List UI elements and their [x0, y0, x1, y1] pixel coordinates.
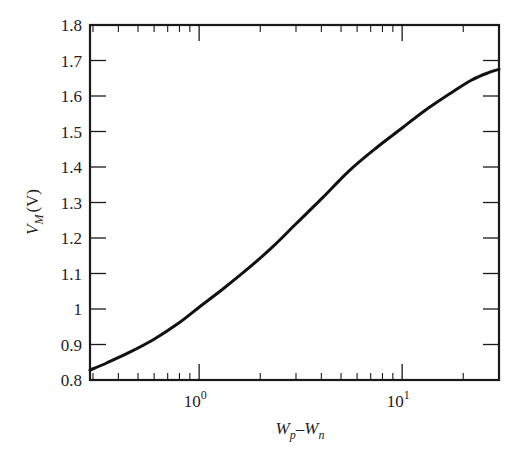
axis-ticks — [90, 25, 499, 380]
y-tick-label: 1.4 — [61, 158, 83, 177]
x-axis-title: Wp–Wn — [276, 419, 325, 442]
x-axis-title-subscript2: n — [318, 428, 324, 442]
y-tick-label: 1.7 — [61, 52, 83, 71]
x-tick-label: 100 — [184, 388, 207, 411]
y-tick-label: 1.2 — [61, 229, 82, 248]
y-tick-label: 1.5 — [61, 123, 82, 142]
y-tick-label: 0.8 — [61, 371, 82, 390]
x-axis-title-subscript1: p — [289, 428, 296, 442]
x-axis-tick-labels: 100101 — [184, 388, 410, 411]
y-axis-title-subscript: M — [32, 214, 46, 226]
x-tick-label: 101 — [387, 388, 410, 411]
x-axis-title-dash: – — [295, 419, 305, 438]
y-axis-title-unit: (V) — [23, 189, 42, 213]
y-axis-tick-labels: 0.80.911.11.21.31.41.51.61.71.8 — [61, 16, 83, 390]
y-tick-label: 1.6 — [61, 87, 82, 106]
vm-curve — [90, 69, 499, 370]
plot-area — [90, 25, 499, 380]
y-tick-label: 0.9 — [61, 336, 82, 355]
y-tick-label: 1.3 — [61, 194, 82, 213]
plot-frame — [90, 25, 499, 380]
y-tick-label: 1.8 — [61, 16, 82, 35]
y-tick-label: 1 — [74, 300, 83, 319]
y-tick-label: 1.1 — [61, 265, 82, 284]
chart: 0.80.911.11.21.31.41.51.61.71.8 100101 V… — [0, 0, 518, 458]
data-series-vm — [90, 69, 499, 370]
y-axis-title: VM(V) — [23, 189, 46, 235]
